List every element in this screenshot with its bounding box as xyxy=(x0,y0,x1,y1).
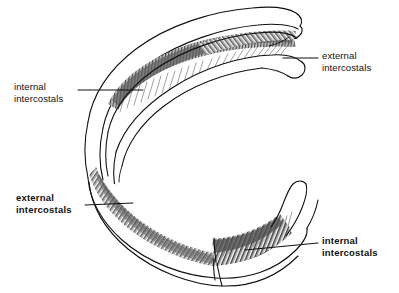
label-line-1: external xyxy=(16,192,72,204)
label-external-intercostals-bottom: external intercostals xyxy=(16,192,72,215)
label-line-1: internal xyxy=(14,81,63,93)
anatomy-figure: internal intercostals external intercost… xyxy=(0,0,399,293)
label-external-intercostals-top: external intercostals xyxy=(322,50,371,73)
label-internal-intercostals-top: internal intercostals xyxy=(14,81,63,104)
label-internal-intercostals-bottom: internal intercostals xyxy=(322,235,378,258)
label-line-2: intercostals xyxy=(322,62,371,74)
label-line-2: intercostals xyxy=(322,247,378,259)
label-line-2: intercostals xyxy=(14,93,63,105)
label-line-1: internal xyxy=(322,235,378,247)
label-line-1: external xyxy=(322,50,371,62)
label-line-2: intercostals xyxy=(16,204,72,216)
